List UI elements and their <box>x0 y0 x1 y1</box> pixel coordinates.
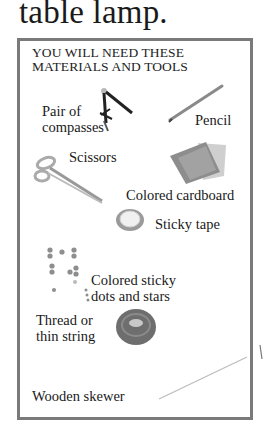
item-label-sticky-tape: Sticky tape <box>155 216 220 232</box>
page-edge-mark <box>259 345 263 359</box>
thread-spool-icon <box>114 307 158 347</box>
cardboard-icon <box>168 140 230 186</box>
item-label-scissors: Scissors <box>69 149 117 165</box>
item-label-pencil: Pencil <box>195 112 231 128</box>
materials-box: YOU WILL NEED THESE MATERIALS AND TOOLS … <box>17 38 253 420</box>
compasses-icon <box>98 87 148 135</box>
tape-roll-icon <box>113 205 147 235</box>
item-label-sticky-dots: Colored sticky dots and stars <box>91 272 176 304</box>
materials-box-title: YOU WILL NEED THESE MATERIALS AND TOOLS <box>32 46 188 74</box>
title-line-1: YOU WILL NEED THESE <box>32 46 188 60</box>
title-line-2: MATERIALS AND TOOLS <box>32 60 188 74</box>
item-label-cardboard: Colored cardboard <box>126 187 234 203</box>
item-label-skewer: Wooden skewer <box>32 388 125 404</box>
sticky-dots-icon <box>32 246 92 306</box>
item-label-thread: Thread or thin string <box>36 312 95 344</box>
page-heading: table lamp. <box>19 0 168 31</box>
skewer-icon <box>157 355 249 401</box>
item-label-compasses: Pair of compasses <box>42 103 104 135</box>
